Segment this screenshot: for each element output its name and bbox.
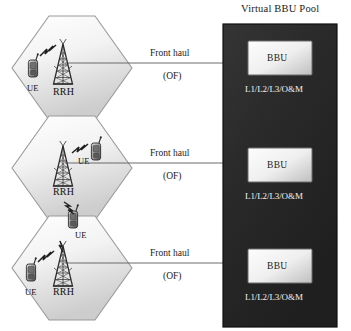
ue-label-2: UE	[78, 157, 89, 166]
bbu-functions-1: L1/L2/L3/O&M	[245, 85, 303, 94]
bbu-functions-3: L1/L2/L3/O&M	[245, 293, 303, 302]
bbu-label-1: BBU	[267, 54, 287, 64]
rrh-label-2: RRH	[53, 187, 74, 197]
bbu-functions-2: L1/L2/L3/O&M	[245, 192, 303, 201]
ue-label-4: UE	[25, 288, 36, 297]
rrh-label-1: RRH	[53, 87, 74, 97]
fronthaul-medium-3: (OF)	[163, 272, 181, 282]
ue-label-3: UE	[75, 231, 86, 240]
bbu-label-2: BBU	[267, 161, 287, 171]
ue-label-1: UE	[27, 84, 38, 93]
rrh-label-3: RRH	[53, 287, 74, 297]
fronthaul-label-2: Front haul	[150, 149, 189, 159]
pool-title: Virtual BBU Pool	[241, 4, 319, 15]
fronthaul-label-3: Front haul	[150, 249, 189, 259]
bbu-label-3: BBU	[267, 262, 287, 272]
diagram-canvas: Virtual BBU Pool Front haul (OF) Front h…	[0, 0, 351, 331]
fronthaul-label-1: Front haul	[150, 49, 189, 59]
fronthaul-medium-1: (OF)	[163, 72, 181, 82]
fronthaul-medium-2: (OF)	[163, 172, 181, 182]
